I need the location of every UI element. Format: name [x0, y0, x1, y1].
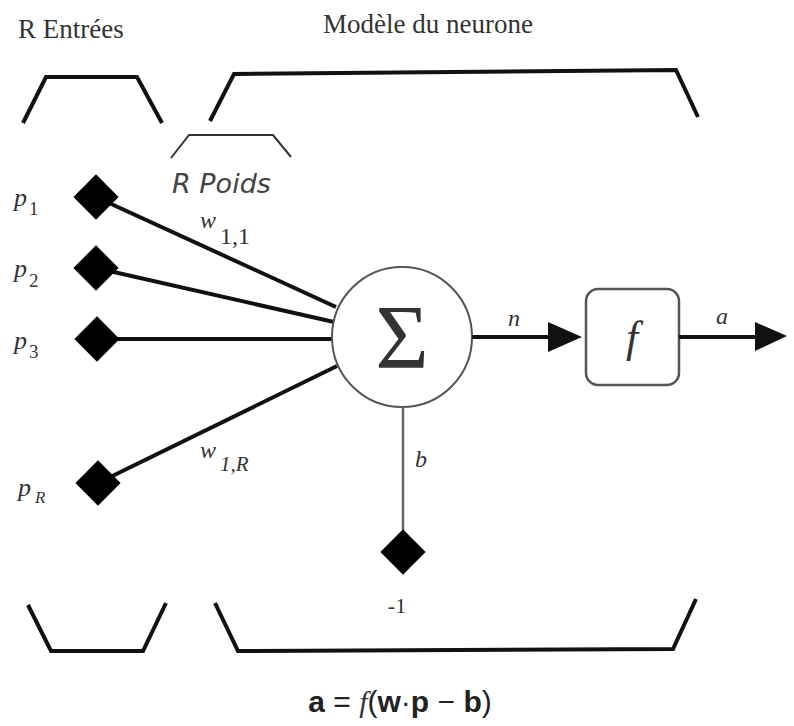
svg-text:R: R: [34, 488, 46, 507]
svg-text:1,R: 1,R: [220, 452, 249, 476]
weight-line-2: [96, 268, 334, 322]
inputs-bracket-bottom: [28, 603, 166, 651]
weights-label: R Poids: [172, 168, 271, 199]
weight-label-1-1: w 1,1: [200, 207, 250, 249]
svg-text:w: w: [200, 437, 216, 463]
input-label-R: p R: [16, 473, 46, 507]
weight-line-R: [98, 366, 337, 483]
input-node-3: [74, 316, 119, 361]
svg-text:1,1: 1,1: [220, 223, 250, 249]
neuron-formula: a = f(w·p − b): [308, 685, 491, 718]
input-node-R: [75, 460, 120, 505]
svg-text:p: p: [12, 326, 27, 355]
output-label: a: [716, 303, 728, 329]
svg-text:3: 3: [29, 341, 39, 362]
weight-label-1-R: w 1,R: [200, 437, 249, 476]
svg-text:p: p: [12, 183, 27, 212]
net-arrowhead: [548, 322, 582, 352]
model-bracket-top: [210, 70, 698, 121]
output-arrowhead: [755, 322, 787, 351]
bias-input-node: [380, 529, 425, 574]
svg-text:1: 1: [29, 198, 39, 219]
bias-input-value: -1: [388, 593, 406, 618]
svg-text:p: p: [16, 473, 31, 502]
input-label-1: p 1: [12, 183, 39, 219]
summation-symbol: Σ: [375, 286, 429, 388]
model-bracket-bottom: [215, 599, 696, 651]
model-title: Modèle du neurone: [323, 9, 533, 39]
inputs-bracket-top: [23, 77, 162, 123]
net-label: n: [508, 305, 520, 331]
svg-text:2: 2: [29, 270, 39, 291]
bias-label: b: [415, 446, 427, 472]
input-label-3: p 3: [12, 326, 39, 362]
neuron-model-diagram: R Entrées Modèle du neurone R Poids p 1 …: [0, 0, 794, 726]
svg-text:p: p: [12, 254, 27, 283]
inputs-title: R Entrées: [18, 14, 124, 44]
svg-text:w: w: [200, 207, 216, 233]
weights-bracket: [171, 135, 291, 158]
input-label-2: p 2: [12, 254, 39, 291]
input-node-2: [73, 245, 118, 290]
input-node-1: [73, 174, 118, 219]
